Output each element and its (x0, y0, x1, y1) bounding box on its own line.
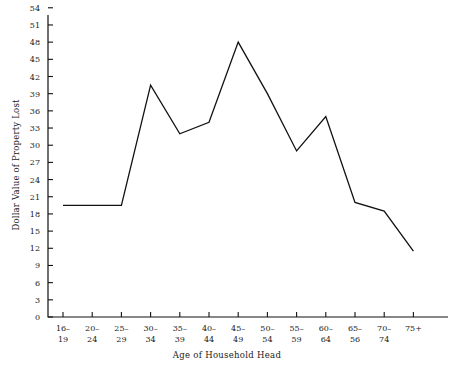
x-axis-tick-label: 54 (262, 335, 272, 344)
x-axis-tick-label: 45– (231, 324, 245, 333)
x-axis-tick-label: 70– (377, 324, 391, 333)
y-axis-tick-label: 48 (30, 38, 40, 47)
y-axis-tick-label: 30 (30, 141, 40, 150)
x-axis-tick-label: 29 (116, 335, 126, 344)
data-series-line (63, 42, 413, 251)
y-axis-tick-label: 18 (30, 210, 40, 219)
x-axis-tick-label: 60– (319, 324, 333, 333)
y-axis-tick-group: 0369121518212427303336394245485154 (30, 4, 53, 322)
chart-plot-area: 0369121518212427303336394245485154 16–19… (0, 0, 454, 372)
x-axis-tick-label: 50– (260, 324, 274, 333)
x-axis-title-text: Age of Household Head (173, 350, 281, 360)
y-axis-tick-label: 51 (30, 21, 40, 30)
y-axis-tick-label: 39 (30, 90, 40, 99)
y-axis-tick-label: 42 (30, 73, 40, 82)
chart-container: Dollar Value of Property Lost 0369121518… (0, 0, 454, 372)
x-axis-tick-group (63, 312, 413, 317)
y-axis-tick-label: 3 (35, 296, 40, 305)
x-axis-tick-label: 34 (146, 335, 156, 344)
y-axis-tick-label: 45 (30, 55, 40, 64)
x-axis-tick-label: 74 (379, 335, 389, 344)
y-axis-tick-label: 21 (30, 193, 40, 202)
x-axis-tick-label: 16– (56, 324, 70, 333)
y-axis-tick-label: 12 (30, 244, 40, 253)
y-axis-tick-label: 6 (35, 279, 40, 288)
y-axis-tick-label: 24 (30, 176, 40, 185)
x-axis-tick-label: 19 (58, 335, 68, 344)
x-axis-tick-label: 30– (144, 324, 158, 333)
x-axis-tick-label: 59 (292, 335, 302, 344)
y-axis-tick-label: 9 (35, 261, 40, 270)
x-axis-tick-label: 49 (233, 335, 243, 344)
y-axis-tick-label: 0 (35, 313, 40, 322)
x-axis-tick-label: 40– (202, 324, 216, 333)
x-axis-tick-label: 24 (87, 335, 97, 344)
x-axis-tick-label: 56 (350, 335, 360, 344)
y-axis-tick-label: 27 (30, 158, 40, 167)
x-axis-tick-label: 25– (114, 324, 128, 333)
x-axis-title: Age of Household Head (0, 350, 454, 360)
x-axis-tick-label: 20– (85, 324, 99, 333)
x-axis-tick-label: 75+ (405, 324, 422, 333)
x-axis-tick-label: 64 (321, 335, 331, 344)
x-axis-tick-label: 55– (290, 324, 304, 333)
x-axis-label-group: 16–1920–2425–2930–3435–3940–4445–4950–54… (56, 324, 422, 344)
y-axis-tick-label: 54 (30, 4, 40, 13)
x-axis-tick-label: 35– (173, 324, 187, 333)
y-axis-tick-label: 33 (30, 124, 40, 133)
x-axis-tick-label: 65– (348, 324, 362, 333)
y-axis-tick-label: 15 (30, 227, 40, 236)
y-axis-tick-label: 36 (30, 107, 40, 116)
x-axis-tick-label: 39 (175, 335, 185, 344)
x-axis-tick-label: 44 (204, 335, 214, 344)
